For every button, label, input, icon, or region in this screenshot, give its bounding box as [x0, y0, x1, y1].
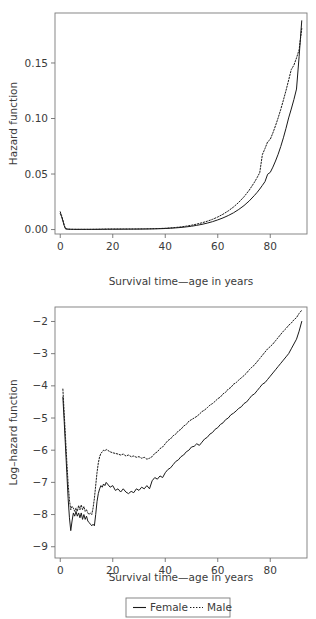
y-tick-label: −4 — [33, 379, 49, 391]
x-tick-label: 0 — [57, 240, 64, 252]
plot-frame — [55, 13, 307, 234]
x-tick-label: 60 — [211, 240, 224, 252]
y-tick-label: 0.05 — [25, 168, 48, 180]
y-tick-label: −6 — [33, 444, 49, 456]
chart-legend: FemaleMale — [126, 598, 232, 617]
hazard-figure: 0204060800.000.050.100.15Survival time—a… — [0, 0, 316, 619]
legend-label-male: Male — [207, 601, 232, 613]
hazard-function-chart: 0204060800.000.050.100.15Survival time—a… — [7, 13, 307, 287]
y-tick-label: −9 — [33, 540, 48, 552]
y-axis-title: Log–hazard function — [7, 379, 19, 485]
y-axis-title: Hazard function — [7, 82, 19, 165]
log-hazard-function-chart: 020406080−2−3−4−5−6−7−8−9Survival time—a… — [7, 307, 307, 583]
y-tick-label: −2 — [33, 315, 48, 327]
x-axis-title: Survival time—age in years — [109, 571, 254, 583]
y-tick-label: 0.15 — [25, 57, 48, 69]
series-line-female — [60, 21, 302, 230]
y-tick-label: 0.00 — [25, 223, 48, 235]
figure-canvas: 0204060800.000.050.100.15Survival time—a… — [0, 0, 316, 619]
series-line-male — [60, 29, 302, 230]
y-tick-label: −7 — [33, 476, 48, 488]
y-tick-label: −5 — [33, 412, 48, 424]
y-tick-label: 0.10 — [25, 112, 48, 124]
x-tick-label: 80 — [264, 240, 277, 252]
x-tick-label: 40 — [159, 240, 172, 252]
x-axis-title: Survival time—age in years — [109, 275, 254, 287]
x-tick-label: 20 — [106, 240, 119, 252]
plot-frame — [55, 307, 307, 558]
series-line-male — [63, 310, 302, 514]
x-tick-label: 80 — [264, 564, 277, 576]
y-tick-label: −8 — [33, 508, 48, 520]
x-tick-label: 0 — [57, 564, 64, 576]
series-line-female — [63, 321, 302, 530]
y-tick-label: −3 — [33, 347, 48, 359]
legend-label-female: Female — [150, 601, 188, 613]
